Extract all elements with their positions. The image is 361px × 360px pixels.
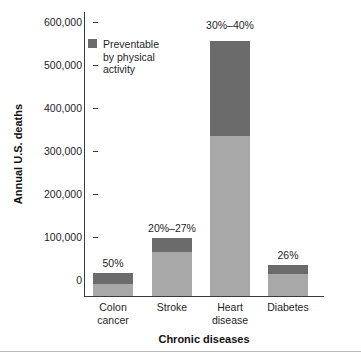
bar-annotation-heart-disease: 30%–40% (190, 20, 270, 31)
x-axis-line (84, 296, 324, 297)
bar-annotation-stroke: 20%–27% (132, 223, 212, 234)
y-tick-label-0: 0 (20, 275, 82, 286)
chart-figure: 600,000 500,000 400,000 300,000 200,000 … (0, 0, 361, 360)
y-axis-title: Annual U.S. deaths (12, 84, 24, 224)
bar-heart-disease[interactable] (210, 41, 250, 296)
x-category-label-diabetes-line1: Diabetes (238, 301, 338, 314)
y-tick-label-200000: 200,000 (20, 189, 82, 200)
y-axis-tick-labels: 600,000 500,000 400,000 300,000 200,000 … (14, 0, 82, 300)
bottom-divider (0, 351, 361, 352)
y-tick-label-600000: 600,000 (20, 17, 82, 28)
bar-annotation-diabetes: 26% (258, 250, 318, 261)
legend: Preventable by physical activity (88, 38, 159, 76)
y-tick-label-400000: 400,000 (20, 103, 82, 114)
bar-segment-preventable-diabetes (268, 265, 308, 274)
bar-stroke[interactable] (152, 238, 192, 296)
x-category-label-colon-cancer-line2: cancer (63, 314, 163, 327)
y-tick-label-100000: 100,000 (20, 232, 82, 243)
x-axis-title: Chronic diseases (84, 333, 324, 345)
x-category-label-diabetes: Diabetes (238, 301, 338, 314)
y-tick-label-300000: 300,000 (20, 146, 82, 157)
bar-segment-preventable-heart-disease (210, 41, 250, 136)
legend-label-preventable: Preventable by physical activity (103, 38, 159, 76)
y-tick-label-500000: 500,000 (20, 60, 82, 71)
bar-annotation-colon-cancer: 50% (83, 258, 143, 269)
legend-swatch-preventable-icon (88, 39, 97, 48)
bar-diabetes[interactable] (268, 265, 308, 296)
bar-segment-preventable-stroke (152, 238, 192, 252)
x-category-label-heart-disease-line2: disease (180, 314, 280, 327)
bar-segment-preventable-colon-cancer (93, 273, 133, 284)
bar-colon-cancer[interactable] (93, 273, 133, 296)
